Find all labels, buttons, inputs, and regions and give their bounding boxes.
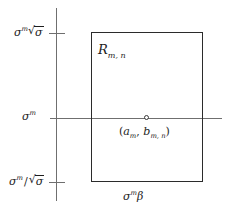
point-label-comma: , — [136, 125, 140, 138]
tick-mark-upper — [49, 33, 65, 34]
axis-label-y-middle: σm — [22, 110, 36, 122]
axis-label-y-middle-exponent: m — [30, 109, 36, 117]
axis-label-x-bottom-factor: β — [137, 190, 143, 203]
math-figure: σmσ σm σm/σ Rm, n (am, bm, n) σmβ — [0, 0, 229, 214]
axis-label-y-middle-base: σ — [22, 110, 30, 123]
vertical-axis — [56, 8, 57, 201]
axis-label-y-lower-exponent: m — [17, 174, 23, 182]
point-marker-icon — [144, 115, 149, 120]
region-label: Rm, n — [98, 43, 126, 60]
region-label-symbol: R — [98, 42, 108, 57]
axis-label-y-upper-radicand: σ — [34, 26, 44, 38]
axis-label-y-lower-base: σ — [9, 175, 17, 188]
axis-label-x-bottom: σmβ — [123, 190, 143, 202]
axis-label-y-lower-radicand: σ — [35, 175, 45, 187]
axis-label-x-bottom-base: σ — [123, 190, 131, 203]
point-label: (am, bm, n) — [119, 126, 170, 140]
axis-label-y-upper: σmσ — [14, 25, 44, 38]
point-label-close-paren: ) — [166, 125, 170, 138]
sqrt-icon: σ — [29, 174, 45, 187]
sqrt-icon: σ — [28, 25, 44, 38]
tick-mark-lower — [49, 182, 65, 183]
axis-label-y-upper-base: σ — [14, 26, 22, 39]
region-label-subscript: m, n — [108, 51, 126, 60]
axis-label-y-lower: σm/σ — [9, 174, 44, 187]
point-label-second-subscript: m, n — [150, 132, 165, 140]
